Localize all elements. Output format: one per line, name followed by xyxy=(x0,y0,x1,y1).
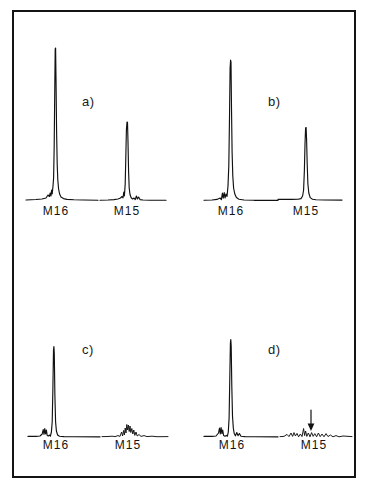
trace-d-m16 xyxy=(204,338,278,438)
panel-c: c) M16 M15 xyxy=(14,246,186,480)
trace-d-m15 xyxy=(280,338,352,438)
figure-root: a) M16 M15 b) M16 M15 xyxy=(0,0,370,493)
trace-c-m16-label: M16 xyxy=(43,438,70,452)
trace-a-m16-label: M16 xyxy=(43,204,70,218)
trace-b-m16 xyxy=(204,46,278,202)
trace-d-m15-label: M15 xyxy=(301,438,328,452)
trace-c-m15 xyxy=(102,344,168,438)
figure-frame: a) M16 M15 b) M16 M15 xyxy=(12,10,356,478)
trace-b-m15-label: M15 xyxy=(293,204,320,218)
trace-c-m16 xyxy=(28,344,100,438)
trace-a-m16 xyxy=(26,46,98,202)
panel-b: b) M16 M15 xyxy=(186,12,358,246)
panel-d: d) M16 M15 xyxy=(186,246,358,480)
trace-d-m16-label: M16 xyxy=(219,438,246,452)
trace-b-m15 xyxy=(278,46,342,202)
trace-b-m16-label: M16 xyxy=(218,204,245,218)
trace-a-m15 xyxy=(100,46,166,202)
panel-a: a) M16 M15 xyxy=(14,12,186,246)
trace-c-m15-label: M15 xyxy=(115,438,142,452)
trace-a-m15-label: M15 xyxy=(114,204,141,218)
